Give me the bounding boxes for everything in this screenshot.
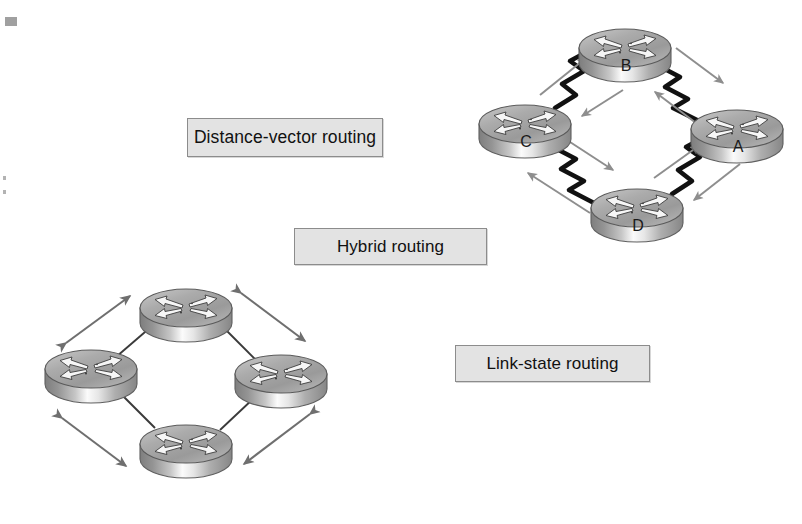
router-d: [591, 189, 683, 242]
router-b: [579, 29, 671, 82]
lsa-arrow-left-bottom: [62, 418, 126, 466]
label-link-state-routing: Link-state routing: [455, 345, 650, 382]
scan-artifact-mid-1: [3, 176, 6, 180]
label-distance-vector-routing: Distance-vector routing: [187, 118, 383, 157]
routing-protocols-figure: B C A D Distance-vector routing Hybrid r…: [0, 0, 802, 524]
lsa-arrow-right-bottom: [244, 414, 310, 464]
distance-vector-topology: [479, 29, 783, 242]
link-state-topology: [45, 289, 327, 478]
router-link-state-right: [235, 355, 327, 408]
update-arrow-a-to-d: [694, 164, 740, 200]
lsa-arrow-top-left: [66, 296, 130, 343]
scan-artifact-mid-2: [3, 190, 6, 194]
label-hybrid-routing: Hybrid routing: [294, 228, 487, 265]
update-arrow-c-to-d: [570, 142, 613, 170]
router-c: [479, 105, 571, 158]
router-link-state-bottom: [140, 425, 232, 478]
serial-link-c-d: [553, 147, 594, 203]
router-link-state-top: [140, 289, 232, 342]
serial-link-b-a: [659, 66, 697, 120]
update-arrow-a-to-b: [655, 92, 696, 123]
label-link-state-routing-text: Link-state routing: [486, 354, 618, 374]
label-hybrid-routing-text: Hybrid routing: [337, 237, 444, 257]
router-a: [691, 110, 783, 163]
update-arrow-b-to-c: [582, 90, 623, 116]
scan-artifact-top: [5, 17, 17, 26]
lsa-arrow-top-right: [241, 293, 305, 341]
router-link-state-left: [45, 350, 137, 403]
label-distance-vector-routing-text: Distance-vector routing: [194, 127, 376, 148]
update-arrow-b-to-a: [676, 48, 723, 83]
